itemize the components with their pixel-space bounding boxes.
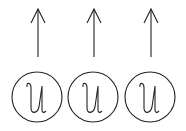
node-1 (12, 9, 62, 122)
node-circle (125, 72, 175, 122)
script-u-glyph (83, 83, 102, 112)
up-arrow-icon (144, 9, 158, 57)
up-arrow-icon (87, 9, 101, 57)
node-circle (68, 72, 118, 122)
node-circle (12, 72, 62, 122)
script-u-glyph (27, 83, 46, 112)
node-3 (125, 9, 175, 122)
node-2 (68, 9, 118, 122)
diagram-canvas (0, 0, 186, 131)
script-u-glyph (140, 83, 159, 112)
up-arrow-icon (31, 9, 45, 57)
